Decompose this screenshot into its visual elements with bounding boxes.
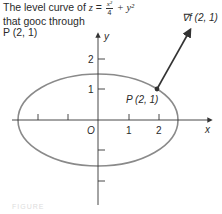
- y-tick-label-1: 1: [88, 84, 94, 95]
- level-curve-diagram: ∇f (2, 1) P (2, 1) x y O 1 2 2 1: [0, 0, 222, 214]
- point-p: [155, 87, 160, 92]
- x-tick-label-1: 1: [126, 125, 132, 136]
- gradient-label: ∇f (2, 1): [182, 12, 218, 23]
- y-axis-label: y: [103, 31, 110, 42]
- figure-caption: FIGURE: [12, 203, 44, 210]
- y-tick-label-2: 2: [88, 54, 94, 65]
- origin-label: O: [87, 125, 95, 136]
- point-label: P (2, 1): [126, 94, 158, 105]
- x-tick-label-2: 2: [156, 125, 162, 136]
- x-axis-label: x: [204, 124, 211, 135]
- gradient-vector: [157, 32, 189, 89]
- x-ticks: [38, 114, 159, 120]
